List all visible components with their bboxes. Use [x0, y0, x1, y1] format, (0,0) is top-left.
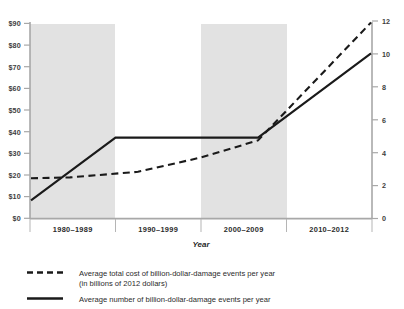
- right-tick-label: 10: [382, 50, 390, 59]
- right-tick-label: 6: [382, 116, 386, 125]
- left-tick-label: $80: [8, 41, 21, 50]
- right-tick-label: 0: [382, 214, 386, 223]
- category-label: 2000–2009: [224, 225, 264, 234]
- shaded-bands: [30, 24, 287, 218]
- x-axis-title: Year: [192, 240, 210, 249]
- legend: Average total cost of billion-dollar-dam…: [27, 269, 276, 304]
- right-tick-label: 4: [382, 149, 386, 158]
- right-tick-label: 8: [382, 83, 386, 92]
- left-tick-label: $70: [8, 63, 21, 72]
- right-axis-labels: 12 10 8 6 4 2 0: [382, 17, 390, 224]
- left-tick-label: $30: [8, 149, 21, 158]
- left-tick-label: $40: [8, 128, 21, 137]
- left-tick-label: $60: [8, 84, 21, 93]
- category-label: 1980–1989: [53, 225, 93, 234]
- right-tick-label: 2: [382, 181, 386, 190]
- line-chart: $90 $80 $70 $60 $50 $40 $30 $20 $10 $0 1…: [0, 0, 404, 309]
- legend-label-line1: Average total cost of billion-dollar-dam…: [79, 269, 276, 278]
- left-tick-label: $0: [13, 214, 21, 223]
- category-label: 2010–2012: [309, 225, 349, 234]
- left-axis-labels: $90 $80 $70 $60 $50 $40 $30 $20 $10 $0: [8, 19, 21, 223]
- legend-label-line1: Average number of billion-dollar-damage …: [79, 295, 271, 304]
- left-tick-label: $50: [8, 106, 21, 115]
- left-axis-ticks: [24, 23, 30, 218]
- category-label: 1990–1999: [138, 225, 178, 234]
- legend-label-line2: (in billions of 2012 dollars): [79, 279, 168, 288]
- left-tick-label: $90: [8, 19, 21, 28]
- shaded-band-1980-1989: [30, 24, 115, 218]
- right-tick-label: 12: [382, 17, 390, 26]
- right-axis-ticks: [372, 21, 378, 219]
- left-tick-label: $20: [8, 171, 21, 180]
- left-tick-label: $10: [8, 192, 21, 201]
- chart-container: $90 $80 $70 $60 $50 $40 $30 $20 $10 $0 1…: [0, 0, 404, 309]
- shaded-band-2000-2009: [201, 24, 287, 218]
